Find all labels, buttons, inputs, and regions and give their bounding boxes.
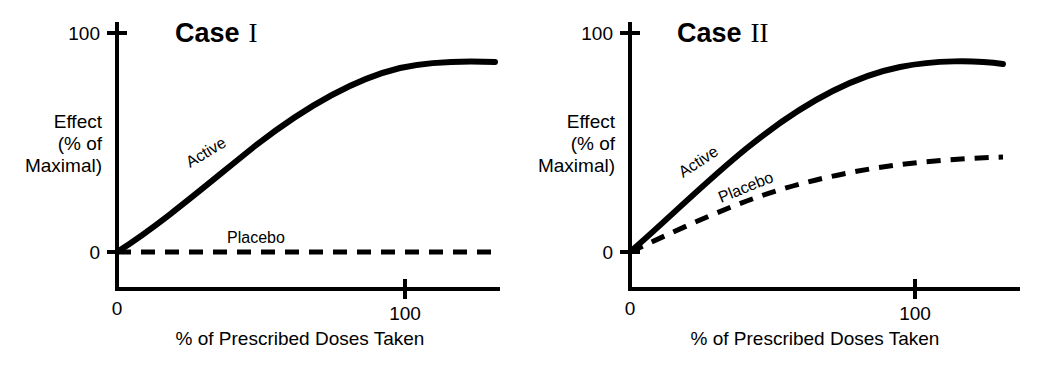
chart-panel-case-2: CaseII 100 0 Effect (% of Maximal) 0 100… [525, 0, 1049, 388]
case-2-y-tick-label-0: 0 [602, 242, 613, 263]
case-1-y-tick-label-100: 100 [68, 23, 100, 44]
case-1-x-tick-label-0: 0 [112, 298, 123, 319]
case-1-x-tick-label-100: 100 [389, 303, 421, 324]
figure-container: CaseI 100 0 Effect (% of Maximal) 0 100 … [0, 0, 1049, 388]
case-1-active-curve [117, 62, 495, 252]
case-2-title: CaseII [677, 18, 769, 48]
case-1-svg: CaseI 100 0 Effect (% of Maximal) 0 100 … [0, 0, 524, 388]
case-2-x-tick-label-100: 100 [899, 303, 931, 324]
case-2-y-axis-title-line1: Effect [567, 111, 616, 132]
case-2-svg: CaseII 100 0 Effect (% of Maximal) 0 100… [525, 0, 1049, 388]
case-1-title: CaseI [175, 18, 258, 48]
case-2-x-tick-label-0: 0 [625, 298, 636, 319]
case-2-y-axis-title-line3: Maximal) [538, 155, 615, 176]
case-2-title-word: Case [677, 18, 742, 48]
case-2-y-tick-label-100: 100 [581, 23, 613, 44]
chart-panel-case-1: CaseI 100 0 Effect (% of Maximal) 0 100 … [0, 0, 524, 388]
case-1-x-axis-title: % of Prescribed Doses Taken [176, 328, 425, 349]
case-1-title-word: Case [175, 18, 240, 48]
case-2-y-axis-title-line2: (% of [571, 133, 616, 154]
case-1-y-axis-title-line2: (% of [58, 133, 103, 154]
case-2-x-axis-title: % of Prescribed Doses Taken [691, 328, 940, 349]
case-1-title-numeral: I [249, 18, 258, 48]
case-1-placebo-label: Placebo [227, 229, 285, 246]
case-1-y-axis-title-line3: Maximal) [25, 155, 102, 176]
case-1-y-tick-label-0: 0 [89, 242, 100, 263]
case-2-active-curve [630, 61, 1003, 252]
case-1-y-axis-title-line1: Effect [54, 111, 103, 132]
case-2-title-numeral: II [751, 18, 769, 48]
case-1-active-label: Active [183, 134, 229, 171]
